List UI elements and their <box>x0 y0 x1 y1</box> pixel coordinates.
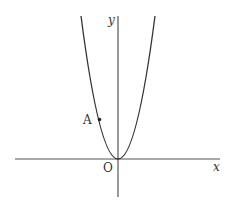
x-axis-label: x <box>213 160 220 174</box>
origin-label: O <box>103 161 113 175</box>
point-a-label: A <box>82 113 92 127</box>
point-a <box>98 118 102 122</box>
y-axis-label: y <box>107 13 115 27</box>
parabola-diagram: A O x y <box>0 0 231 210</box>
